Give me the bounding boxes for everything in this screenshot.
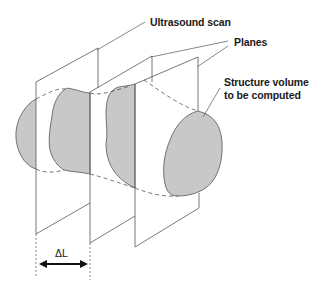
label-structure-line1: Structure volume xyxy=(224,76,309,88)
label-ultrasound-scan: Ultrasound scan xyxy=(150,16,231,28)
section-4 xyxy=(164,111,223,196)
leader-planes-2 xyxy=(197,46,228,67)
leader-ultrasound xyxy=(97,22,145,50)
diagram-graphic xyxy=(0,0,330,294)
diagram-canvas: Ultrasound scan Planes Structure volume … xyxy=(0,0,330,294)
leader-structure xyxy=(203,88,220,117)
section-1 xyxy=(16,99,36,169)
label-planes: Planes xyxy=(234,36,267,48)
structure-sections xyxy=(16,84,222,196)
label-delta-l: ΔL xyxy=(55,247,68,259)
leader-planes-1 xyxy=(151,41,228,57)
section-2 xyxy=(49,88,90,174)
section-3 xyxy=(106,84,135,188)
label-structure-line2: to be computed xyxy=(224,89,301,101)
